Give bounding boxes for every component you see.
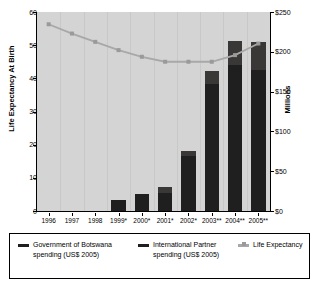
x-axis-tick-mark [235,213,236,216]
life-expectancy-marker [233,53,237,57]
life-expectancy-marker [186,60,190,64]
y-axis-left-tick-mark [33,78,36,79]
y-axis-right-tick-mark [271,131,274,132]
legend-label: Life Expectancy [253,240,302,250]
y-axis-right-tick-mark [271,171,274,172]
y-axis-left-tick-mark [33,211,36,212]
life-expectancy-marker [163,60,167,64]
x-axis-tick-mark [212,213,213,216]
legend-item[interactable]: International Partner spending (US$ 2005… [138,240,242,259]
y-axis-right-tick-label: $0 [275,208,299,215]
y-axis-right-title: Millions [283,60,292,140]
x-axis-tick-mark [72,213,73,216]
x-axis-tick-mark [258,213,259,216]
x-axis-tick-mark [49,213,50,216]
right-axis-line [270,12,271,212]
y-axis-right-tick-mark [271,12,274,13]
chart-canvas: 0102030405060 Life Expectancy At Birth $… [0,0,320,228]
x-axis-tick-mark [165,213,166,216]
x-axis-line [36,211,271,212]
y-axis-left-tick-mark [33,45,36,46]
y-axis-left-tick-mark [33,178,36,179]
y-axis-right-tick-mark [271,211,274,212]
x-axis-tick-mark [142,213,143,216]
life-expectancy-polyline [49,24,259,61]
x-axis-tick-mark [95,213,96,216]
y-axis-left-tick-mark [33,12,36,13]
y-axis-left-tick-mark [33,112,36,113]
y-axis-right-tick-mark [271,52,274,53]
life-expectancy-marker [210,60,214,64]
legend-item[interactable]: Government of Botswana spending (US$ 200… [18,240,130,259]
y-axis-left-title: Life Expectancy At Birth [7,24,16,154]
legend-swatch-partner [138,244,149,247]
x-axis: 1996199719981999*2000*2001*2002*2003**20… [37,213,270,229]
life-expectancy-marker [256,42,260,46]
legend-swatch-gov [18,244,29,247]
y-axis-right-tick-mark [271,92,274,93]
legend-label: International Partner spending (US$ 2005… [153,240,242,259]
x-axis-tick-mark [119,213,120,216]
life-expectancy-marker [117,48,121,52]
life-expectancy-marker [140,55,144,59]
life-expectancy-marker [47,22,51,26]
y-axis-right-tick-label: $50 [275,168,299,175]
legend-label: Government of Botswana spending (US$ 200… [33,240,130,259]
chart-screenshot: 0102030405060 Life Expectancy At Birth $… [0,0,320,286]
life-expectancy-line [37,12,270,211]
chart-legend: Government of Botswana spending (US$ 200… [9,233,310,279]
legend-swatch-life [238,244,249,247]
y-axis-left-tick-mark [33,145,36,146]
x-axis-tick-mark [188,213,189,216]
legend-item[interactable]: Life Expectancy [238,240,308,250]
y-axis-right-tick-label: $250 [275,9,299,16]
y-axis-right-tick-label: $200 [275,48,299,55]
life-expectancy-marker [93,40,97,44]
x-axis-tick-label: 2005** [243,217,273,224]
life-expectancy-marker [70,32,74,36]
